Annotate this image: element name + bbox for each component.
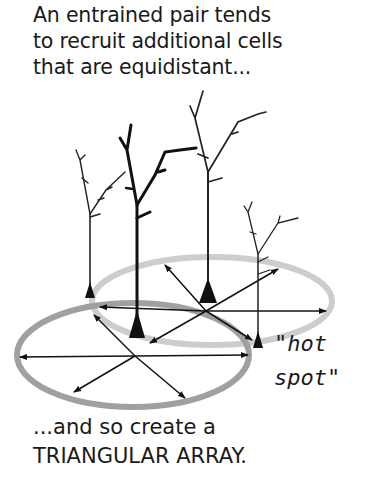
caption-bottom-line-2: TRIANGULAR ARRAY. — [33, 442, 373, 471]
caption-top: An entrained pair tends to recruit addit… — [33, 2, 373, 80]
caption-top-line-1: An entrained pair tends — [33, 2, 373, 28]
caption-bottom-line-1: ...and so create a — [33, 413, 373, 442]
caption-top-line-2: to recruit additional cells — [33, 28, 373, 54]
hot-spot-line-2: spot" — [274, 361, 340, 395]
caption-bottom: ...and so create a TRIANGULAR ARRAY. — [33, 413, 373, 471]
hot-spot-line-1: "hot — [274, 327, 340, 361]
neuron-center-back — [190, 91, 266, 303]
caption-top-line-3: that are equidistant... — [33, 54, 373, 80]
hot-spot-label: "hot spot" — [274, 327, 340, 395]
